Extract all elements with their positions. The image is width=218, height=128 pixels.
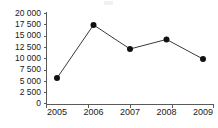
data-point-2006 <box>91 22 97 28</box>
chart-canvas: 20 000 17 500 15 000 12 500 10 000 7 500… <box>0 0 218 128</box>
y-tick-label-10000: 10 000 <box>15 53 41 63</box>
y-tick-label-2500: 2 500 <box>20 87 42 97</box>
y-tick-label-20000: 20 000 <box>15 8 41 18</box>
y-axis-tick-labels: 20 000 17 500 15 000 12 500 10 000 7 500… <box>15 8 41 108</box>
y-tick-label-5000: 5 000 <box>20 76 42 86</box>
x-tick-label-2006: 2006 <box>83 107 103 117</box>
data-point-2007 <box>127 46 133 52</box>
data-point-2009 <box>200 56 206 62</box>
y-tick-label-0: 0 <box>36 98 41 108</box>
data-point-2005 <box>54 75 60 81</box>
y-tick-label-12500: 12 500 <box>15 42 41 52</box>
x-tick-label-2009: 2009 <box>193 107 213 117</box>
x-tick-label-2007: 2007 <box>120 107 140 117</box>
y-tick-label-17500: 17 500 <box>15 19 41 29</box>
y-tick-label-7500: 7 500 <box>20 64 42 74</box>
x-tick-label-2005: 2005 <box>47 107 67 117</box>
x-tick-label-2008: 2008 <box>156 107 176 117</box>
line-chart: 20 000 17 500 15 000 12 500 10 000 7 500… <box>0 0 218 128</box>
x-axis-tick-labels: 2005 2006 2007 2008 2009 <box>47 107 213 117</box>
data-point-2008 <box>164 36 170 42</box>
y-tick-label-15000: 15 000 <box>15 30 41 40</box>
top-artifact-mark <box>104 1 113 5</box>
series-markers <box>54 22 206 81</box>
